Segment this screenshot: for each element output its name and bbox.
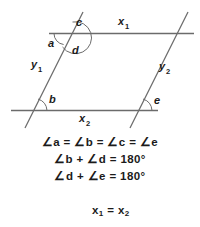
equation-line-4-sub2: 2 (125, 209, 130, 218)
line-label-y1-subscript: 1 (38, 65, 42, 74)
line-label-x2-subscript: 2 (86, 119, 90, 128)
line-label-x2: x (78, 112, 86, 124)
angle-label-e: e (154, 94, 160, 106)
equation-line-4-base1: x (92, 204, 99, 216)
angle-label-d: d (72, 44, 79, 56)
line-label-y1: y (30, 58, 38, 70)
line-label-x1-subscript: 1 (125, 22, 129, 31)
line-label-y2: y (158, 60, 166, 72)
angle-arc-a (54, 34, 64, 45)
geometry-figure-page: c d a b e x 1 x 2 y 1 y 2 ∠a = ∠b = ∠c =… (0, 0, 200, 227)
angle-label-c: c (76, 16, 82, 28)
line-label-x1: x (117, 15, 125, 27)
equation-line-4: x1 = x2 (0, 185, 200, 227)
equation-list: ∠a = ∠b = ∠c = ∠e ∠b + ∠d = 180° ∠d + ∠e… (0, 134, 200, 227)
equation-line-4-base2: x (118, 204, 125, 216)
parallel-lines-diagram: c d a b e x 1 x 2 y 1 y 2 (0, 0, 200, 130)
equation-line-1: ∠a = ∠b = ∠c = ∠e (0, 134, 200, 151)
angle-label-b: b (49, 93, 56, 105)
line-label-y2-subscript: 2 (166, 67, 170, 76)
equation-line-3: ∠d + ∠e = 180° (0, 168, 200, 185)
equation-line-2: ∠b + ∠d = 180° (0, 151, 200, 168)
angle-label-a: a (48, 37, 54, 49)
